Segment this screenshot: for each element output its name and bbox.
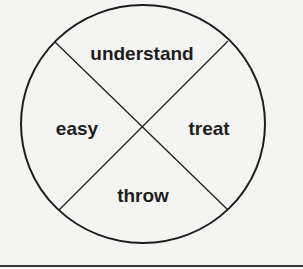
quadrant-left-word: easy <box>56 119 98 138</box>
bottom-horizontal-rule <box>0 265 303 267</box>
quadrant-bottom-word: throw <box>117 186 169 205</box>
quadrant-right-word: treat <box>188 119 229 138</box>
quadrant-circle-diagram <box>0 0 303 269</box>
quadrant-top-word: understand <box>90 44 193 63</box>
